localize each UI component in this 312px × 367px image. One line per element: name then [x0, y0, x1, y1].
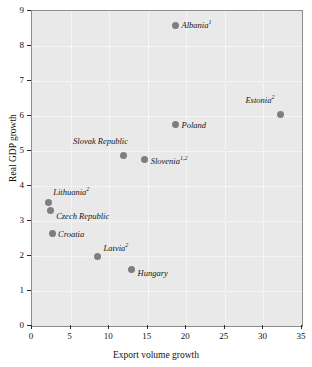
y-tick-label: 6: [20, 111, 25, 120]
data-point-label: Poland: [181, 121, 206, 130]
data-point[interactable]: [49, 230, 56, 237]
data-point[interactable]: [47, 207, 54, 214]
gridline-vertical: [109, 11, 110, 326]
y-tick-label: 8: [20, 41, 25, 50]
y-tick-label: 0: [20, 321, 25, 330]
data-point-label: Slovak Republic: [73, 137, 128, 146]
data-point-label: Czech Republic: [56, 211, 109, 220]
x-tick-mark: [262, 325, 263, 329]
data-point-label-text: Estonia: [245, 95, 271, 105]
data-point[interactable]: [120, 152, 127, 159]
data-point-label-text: Lithuania: [53, 187, 86, 197]
data-point-label: Latvia2: [104, 244, 129, 253]
data-point-label: Croatia: [58, 230, 84, 239]
data-point[interactable]: [45, 199, 52, 206]
y-tick-mark: [27, 220, 31, 221]
data-point-label-text: Albania: [181, 20, 208, 30]
footnote-marker: 2: [271, 94, 274, 100]
data-point-label: Slovenia1,2: [151, 157, 188, 166]
x-tick-label: 25: [219, 332, 228, 341]
gridline-horizontal: [32, 46, 302, 47]
x-tick-mark: [70, 325, 71, 329]
data-point-label-text: Poland: [181, 120, 206, 130]
data-point-label: Hungary: [138, 269, 168, 278]
x-tick-label: 15: [142, 332, 151, 341]
y-tick-mark: [27, 115, 31, 116]
y-tick-label: 4: [20, 181, 25, 190]
x-tick-label: 0: [29, 332, 34, 341]
y-tick-mark: [27, 80, 31, 81]
data-point-label: Lithuania2: [53, 188, 89, 197]
y-tick-label: 9: [20, 6, 25, 15]
y-tick-label: 2: [20, 251, 25, 260]
data-point-label-text: Hungary: [138, 268, 168, 278]
y-tick-label: 1: [20, 286, 25, 295]
gridline-vertical: [225, 11, 226, 326]
y-tick-mark: [27, 255, 31, 256]
plot-area: Albania1Estonia2PolandSlovak RepublicSlo…: [31, 10, 303, 327]
gridline-vertical: [148, 11, 149, 326]
gridline-horizontal: [32, 256, 302, 257]
y-tick-mark: [27, 325, 31, 326]
y-tick-label: 5: [20, 146, 25, 155]
x-tick-label: 35: [297, 332, 306, 341]
scatter-chart-figure: Albania1Estonia2PolandSlovak RepublicSlo…: [0, 0, 312, 367]
gridline-vertical: [71, 11, 72, 326]
x-tick-mark: [301, 325, 302, 329]
y-tick-mark: [27, 150, 31, 151]
y-tick-mark: [27, 45, 31, 46]
data-point[interactable]: [277, 111, 284, 118]
data-point-label: Estonia2: [245, 96, 274, 105]
x-tick-mark: [185, 325, 186, 329]
data-point[interactable]: [94, 253, 101, 260]
y-tick-label: 3: [20, 216, 25, 225]
x-tick-label: 30: [258, 332, 267, 341]
y-axis-title: Real GDP growth: [8, 83, 18, 213]
data-point[interactable]: [172, 121, 179, 128]
footnote-marker: 2: [86, 186, 89, 192]
gridline-horizontal: [32, 221, 302, 222]
x-axis-title: Export volume growth: [0, 350, 312, 360]
data-point[interactable]: [141, 156, 148, 163]
footnote-marker: 1,2: [180, 155, 188, 161]
data-point-label-text: Latvia: [104, 243, 126, 253]
x-tick-label: 20: [181, 332, 190, 341]
gridline-vertical: [186, 11, 187, 326]
data-point-label-text: Slovenia: [151, 156, 180, 166]
x-tick-mark: [147, 325, 148, 329]
data-point-label-text: Slovak Republic: [73, 136, 128, 146]
gridline-vertical: [263, 11, 264, 326]
gridline-horizontal: [32, 81, 302, 82]
x-tick-mark: [224, 325, 225, 329]
y-tick-mark: [27, 10, 31, 11]
data-point-label-text: Czech Republic: [56, 210, 109, 220]
y-tick-label: 7: [20, 76, 25, 85]
data-point[interactable]: [128, 266, 135, 273]
gridline-horizontal: [32, 151, 302, 152]
gridline-horizontal: [32, 116, 302, 117]
x-tick-label: 5: [67, 332, 72, 341]
data-point-label: Albania1: [181, 21, 211, 30]
footnote-marker: 2: [125, 242, 128, 248]
x-tick-mark: [31, 325, 32, 329]
data-point-label-text: Croatia: [58, 229, 84, 239]
x-tick-label: 10: [104, 332, 113, 341]
footnote-marker: 1: [208, 19, 211, 25]
gridline-horizontal: [32, 291, 302, 292]
y-tick-mark: [27, 290, 31, 291]
y-tick-mark: [27, 185, 31, 186]
x-tick-mark: [108, 325, 109, 329]
data-point[interactable]: [172, 22, 179, 29]
